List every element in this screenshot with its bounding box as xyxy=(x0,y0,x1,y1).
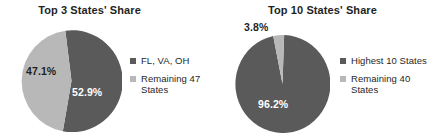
chart-title-top-3-states: Top 3 States' Share xyxy=(0,4,197,16)
chart-title-top-10-states: Top 10 States' Share xyxy=(215,4,430,16)
legend-swatch-icon-light xyxy=(340,76,346,82)
legend-label-highest-10: Highest 10 States xyxy=(351,55,427,66)
legend-top-3-states: FL, VA, OH Remaining 47 States xyxy=(130,55,210,102)
legend-label-remaining-47: Remaining 47 States xyxy=(141,73,210,95)
legend-label-fl-va-oh: FL, VA, OH xyxy=(141,55,189,66)
legend-label-remaining-40: Remaining 40 States xyxy=(351,73,428,95)
pie-chart-top-10-states xyxy=(235,35,330,133)
pie-slice-light-remaining-47 xyxy=(22,31,72,132)
pie-value-label-remaining-47: 47.1% xyxy=(26,65,56,77)
legend-swatch-icon-dark xyxy=(130,58,136,64)
pie-value-label-fl-va-oh: 52.9% xyxy=(72,86,102,98)
chart-panel-top-3-states: Top 3 States' Share 47.1% 52.9% FL, VA, … xyxy=(0,0,215,140)
legend-top-10-states: Highest 10 States Remaining 40 States xyxy=(340,55,428,102)
pie-chart-top-3-states xyxy=(21,30,122,132)
pie-value-label-remaining-40: 3.8% xyxy=(244,21,268,33)
pie-slice-dark-fl-va-oh xyxy=(63,30,122,132)
legend-item-fl-va-oh[interactable]: FL, VA, OH xyxy=(130,55,210,66)
legend-swatch-icon-dark xyxy=(340,58,346,64)
legend-item-remaining-40[interactable]: Remaining 40 States xyxy=(340,73,428,95)
legend-item-remaining-47[interactable]: Remaining 47 States xyxy=(130,73,210,95)
legend-item-highest-10[interactable]: Highest 10 States xyxy=(340,55,428,66)
legend-swatch-icon-light xyxy=(130,76,136,82)
two-pie-chart-figure: Top 3 States' Share 47.1% 52.9% FL, VA, … xyxy=(0,0,430,140)
pie-value-label-highest-10: 96.2% xyxy=(258,98,288,110)
